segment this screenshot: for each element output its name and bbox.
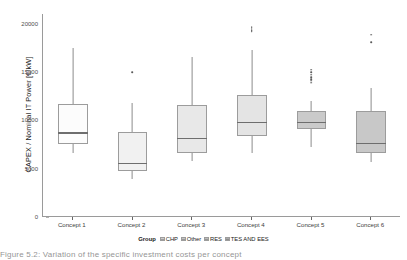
box-iqr xyxy=(297,111,327,129)
box-plot-group xyxy=(177,14,207,217)
outlier-point xyxy=(251,31,253,33)
box-plot-group xyxy=(297,14,327,217)
y-tick-label: 5000 xyxy=(10,166,38,172)
outlier-point xyxy=(311,74,313,76)
median-line xyxy=(118,163,148,164)
legend-key-swatch xyxy=(181,237,186,242)
box-plot-group xyxy=(118,14,148,217)
outlier-point xyxy=(370,41,372,43)
x-tick-mark xyxy=(72,217,73,220)
legend-label: CHP xyxy=(166,236,178,242)
box-iqr xyxy=(58,104,88,144)
x-tick-label: Concept 2 xyxy=(118,221,146,228)
legend-label: TES AND EES xyxy=(231,236,269,242)
box-iqr xyxy=(237,95,267,137)
legend-label: Other xyxy=(187,236,202,242)
whisker-lower xyxy=(371,153,372,163)
whisker-upper xyxy=(132,103,133,132)
outlier-point xyxy=(370,34,372,36)
outlier-point xyxy=(251,28,253,30)
box-plot-group xyxy=(237,14,267,217)
outlier-point xyxy=(251,29,253,31)
box-iqr xyxy=(118,132,148,171)
whisker-lower xyxy=(251,136,252,153)
outlier-point xyxy=(311,77,313,79)
x-tick-label: Concept 1 xyxy=(58,221,86,228)
y-tick-label: 15000 xyxy=(10,69,38,75)
legend-item: RES xyxy=(204,236,222,242)
y-axis-ticks: 05000100001500020000 xyxy=(8,0,38,260)
legend-item: CHP xyxy=(160,236,178,242)
median-line xyxy=(356,143,386,144)
outlier-point xyxy=(311,82,313,84)
x-tick-mark xyxy=(132,217,133,220)
legend-key-swatch xyxy=(225,237,230,242)
median-line xyxy=(297,122,327,123)
x-tick-mark xyxy=(251,217,252,220)
y-tick-label: 0 xyxy=(10,214,38,220)
whisker-upper xyxy=(192,57,193,106)
figure-boxplot: CAPEX / Nominal IT Power [€/kW] 05000100… xyxy=(0,0,407,260)
whisker-lower xyxy=(132,171,133,179)
x-tick-mark xyxy=(311,217,312,220)
x-tick-mark xyxy=(191,217,192,220)
outlier-point xyxy=(311,72,313,74)
median-line xyxy=(237,122,267,123)
x-tick-label: Concept 4 xyxy=(237,221,265,228)
whisker-lower xyxy=(192,153,193,161)
x-tick-mark xyxy=(370,217,371,220)
outlier-point xyxy=(311,80,313,82)
legend-item: TES AND EES xyxy=(225,236,269,242)
whisker-lower xyxy=(72,144,73,153)
legend-label: RES xyxy=(210,236,222,242)
x-tick-label: Concept 3 xyxy=(177,221,205,228)
whisker-upper xyxy=(371,88,372,111)
box-iqr xyxy=(356,111,386,153)
median-line xyxy=(177,138,207,139)
outlier-point xyxy=(132,72,134,74)
legend-item: Other xyxy=(181,236,201,242)
x-tick-label: Concept 6 xyxy=(356,221,384,228)
plot-panel xyxy=(42,14,400,217)
legend-key-swatch xyxy=(204,237,209,242)
x-tick-label: Concept 5 xyxy=(297,221,325,228)
box-plot-group xyxy=(356,14,386,217)
y-tick-label: 20000 xyxy=(10,21,38,27)
outlier-point xyxy=(311,78,313,80)
median-line xyxy=(58,132,88,133)
whisker-upper xyxy=(72,48,73,104)
outlier-point xyxy=(311,69,313,71)
legend: Group CHPOtherRESTES AND EES xyxy=(0,236,407,242)
outlier-point xyxy=(251,26,253,28)
plot-area xyxy=(43,14,400,216)
whisker-upper xyxy=(311,101,312,111)
legend-key-swatch xyxy=(160,237,165,242)
y-tick-label: 10000 xyxy=(10,117,38,123)
box-iqr xyxy=(177,105,207,152)
box-plot-group xyxy=(58,14,88,217)
figure-caption: Figure 5.2: Variation of the specific in… xyxy=(0,250,407,260)
whisker-upper xyxy=(251,50,252,94)
whisker-lower xyxy=(311,129,312,148)
legend-title: Group xyxy=(138,236,156,242)
